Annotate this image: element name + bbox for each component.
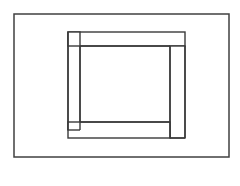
bottom-horizontal-bar (68, 122, 170, 138)
figure-canvas (0, 0, 240, 186)
figure-svg (0, 0, 240, 186)
left-vertical-bar (68, 32, 80, 130)
top-horizontal-bar (68, 32, 185, 46)
right-vertical-bar (170, 46, 185, 138)
page-background (0, 0, 240, 186)
